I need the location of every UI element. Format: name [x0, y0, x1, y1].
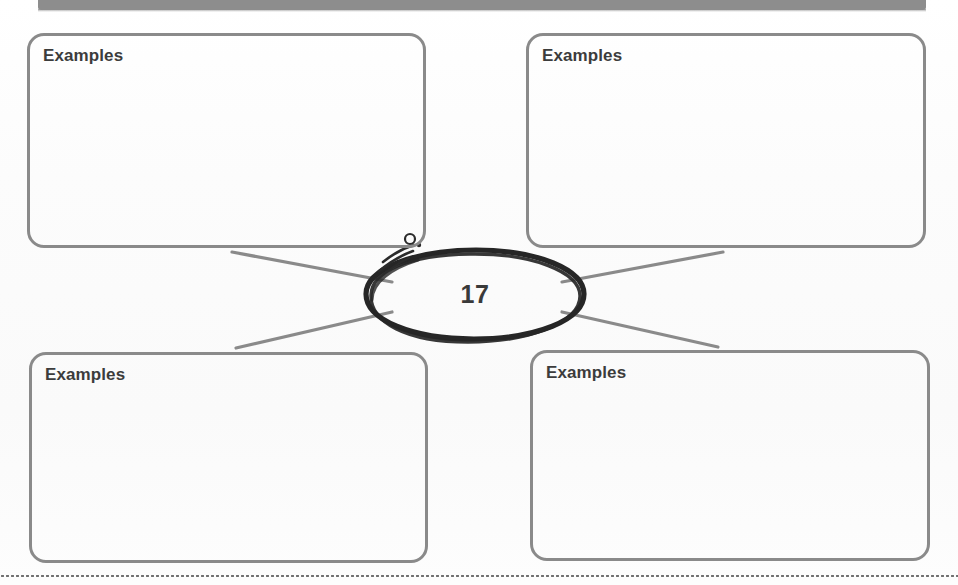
examples-label: Examples — [542, 46, 622, 66]
examples-box-bottom-right[interactable]: Examples — [530, 350, 930, 561]
examples-label: Examples — [45, 365, 125, 385]
examples-box-bottom-left[interactable]: Examples — [29, 352, 428, 563]
connector-bottom-right — [562, 312, 718, 347]
examples-label: Examples — [43, 46, 123, 66]
connector-top-right — [562, 252, 723, 282]
examples-box-top-right[interactable]: Examples — [526, 33, 926, 248]
examples-box-top-left[interactable]: Examples — [27, 33, 426, 248]
header-band — [38, 0, 926, 10]
center-oval-value: 17 — [365, 248, 585, 340]
examples-label: Examples — [546, 363, 626, 383]
worksheet-page: Examples Examples Examples Examples 17 — [0, 0, 958, 585]
footer-dotted-rule — [0, 574, 958, 578]
